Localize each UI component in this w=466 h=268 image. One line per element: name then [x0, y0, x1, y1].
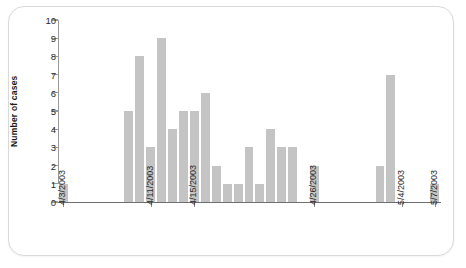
x-tick-label: 4/11/2003 [145, 166, 155, 205]
x-tick-label: 4/26/2003 [308, 165, 318, 205]
y-tick-label: 10 [14, 15, 58, 26]
y-tick-label: 0 [14, 197, 58, 208]
y-axis-ticks: 012345678910 [0, 0, 58, 223]
x-tick-label: 5/7/2003 [429, 170, 439, 205]
y-tick-label: 5 [14, 106, 58, 117]
x-tick-label: 4/3/2003 [57, 170, 67, 205]
y-tick-label: 2 [14, 160, 58, 171]
y-tick-label: 6 [14, 87, 58, 98]
y-tick-label: 1 [14, 178, 58, 189]
y-tick-label: 8 [14, 51, 58, 62]
y-tick-label: 4 [14, 124, 58, 135]
x-tick-label: 5/4/2003 [396, 170, 406, 205]
y-tick-label: 3 [14, 142, 58, 153]
epidemic-curve-figure: Number of cases 012345678910 4/3/20034/1… [0, 0, 466, 268]
x-tick-label: 4/15/2003 [188, 165, 198, 205]
y-tick-label: 9 [14, 33, 58, 44]
x-axis-tick-labels: 4/3/20034/11/20034/15/20034/26/20035/4/2… [58, 0, 448, 268]
y-tick-label: 7 [14, 69, 58, 80]
